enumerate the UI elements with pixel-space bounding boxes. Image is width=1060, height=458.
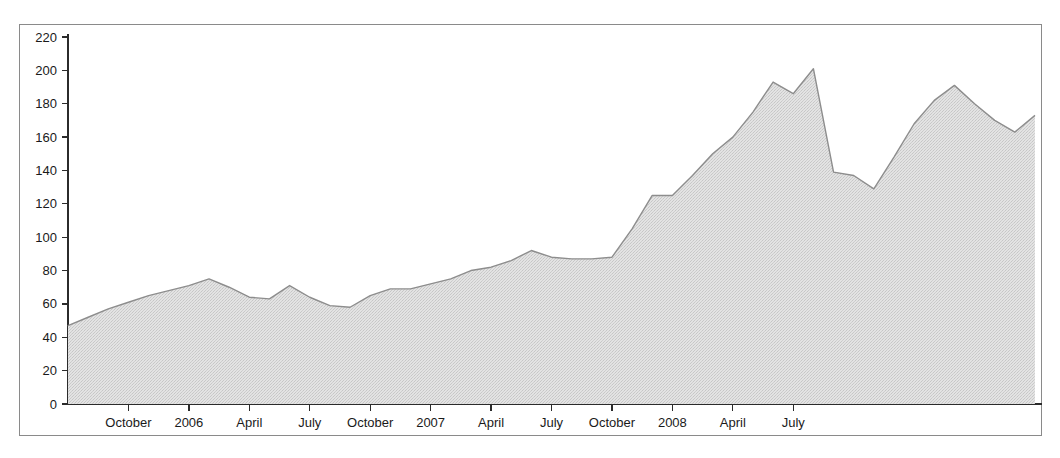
x-tick-label: 2006 (174, 415, 203, 430)
y-tick-label: 200 (35, 63, 57, 78)
x-tick-label: July (298, 415, 322, 430)
y-tick-label: 140 (35, 163, 57, 178)
x-tick-label: July (782, 415, 806, 430)
x-tick-label: April (236, 415, 262, 430)
x-axis: October2006AprilJulyOctober2007AprilJuly… (68, 404, 1042, 430)
y-tick-label: 60 (43, 296, 57, 311)
x-tick-label: October (347, 415, 394, 430)
y-tick-label: 100 (35, 230, 57, 245)
x-tick-label: April (478, 415, 504, 430)
series-area-fill (68, 69, 1035, 404)
y-tick-label: 220 (35, 30, 57, 45)
x-tick-label: April (720, 415, 746, 430)
y-tick-label: 120 (35, 196, 57, 211)
y-tick-label: 180 (35, 96, 57, 111)
x-tick-label: October (589, 415, 636, 430)
x-tick-label: October (105, 415, 152, 430)
y-tick-label: 80 (43, 263, 57, 278)
y-tick-label: 20 (43, 363, 57, 378)
x-tick-label: 2008 (658, 415, 687, 430)
x-tick-label: July (540, 415, 564, 430)
y-tick-label: 0 (50, 397, 57, 412)
y-tick-label: 160 (35, 130, 57, 145)
chart-figure: 020406080100120140160180200220 October20… (0, 0, 1060, 458)
area-chart: 020406080100120140160180200220 October20… (0, 0, 1060, 458)
x-tick-label: 2007 (416, 415, 445, 430)
y-tick-label: 40 (43, 330, 57, 345)
y-axis: 020406080100120140160180200220 (35, 30, 68, 412)
data-series-area (68, 69, 1035, 404)
